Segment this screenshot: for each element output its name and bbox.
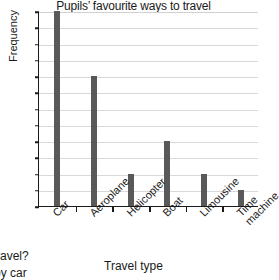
bar	[54, 11, 60, 206]
y-tick-mark	[35, 109, 39, 111]
x-axis-label: Travel type	[0, 259, 267, 273]
page-text-fragment-question: ravel?	[0, 249, 29, 263]
bars-layer	[39, 12, 258, 206]
bar	[164, 141, 170, 206]
bar	[91, 76, 97, 206]
y-tick-mark	[35, 76, 39, 78]
y-tick-mark	[35, 125, 39, 127]
x-tick-mark	[149, 207, 151, 212]
x-tick-mark	[222, 207, 224, 212]
y-axis-label: Frequency	[7, 10, 19, 62]
y-tick-mark	[35, 93, 39, 95]
x-tick-mark	[112, 207, 114, 212]
x-tick-mark	[76, 207, 78, 212]
y-tick-mark	[35, 11, 39, 13]
y-tick-mark	[35, 28, 39, 30]
y-tick-mark	[35, 174, 39, 176]
plot-area: 0123456789101112 Frequency	[38, 12, 258, 207]
y-tick-mark	[35, 44, 39, 46]
x-tick-mark	[186, 207, 188, 212]
y-tick-mark	[35, 206, 39, 208]
y-tick-mark	[35, 158, 39, 160]
page-text-fragment-answer: by car	[0, 266, 27, 280]
y-tick-mark	[35, 141, 39, 143]
y-tick-mark	[35, 60, 39, 62]
y-tick-mark	[35, 190, 39, 192]
